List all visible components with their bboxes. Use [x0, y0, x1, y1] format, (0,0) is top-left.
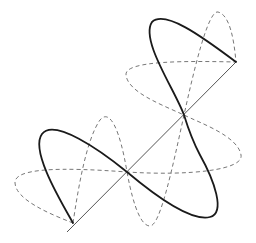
resultant-wave	[39, 19, 236, 223]
horizontal-component-wave	[15, 62, 241, 224]
wave-diagram	[0, 0, 256, 243]
